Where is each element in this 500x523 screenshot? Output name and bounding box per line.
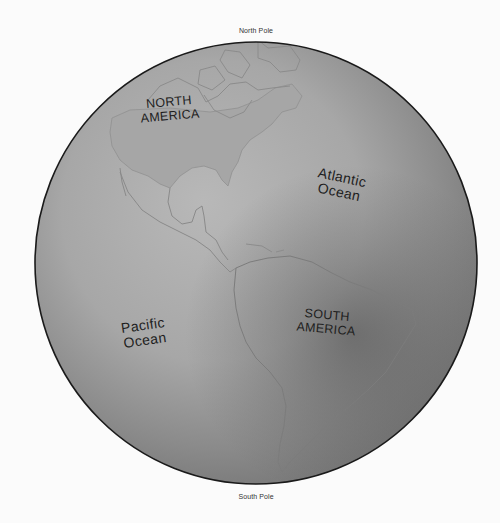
south-america-label: SOUTH AMERICA — [296, 306, 357, 338]
south-pole-label: South Pole — [0, 493, 500, 500]
pacific-ocean-label: Pacific Ocean — [120, 315, 168, 351]
globe — [0, 0, 500, 523]
north-america-label: NORTH AMERICA — [139, 93, 200, 125]
